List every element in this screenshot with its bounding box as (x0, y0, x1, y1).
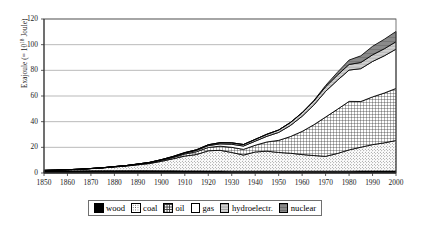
swatch-oil-icon (163, 203, 173, 213)
legend-label-nuclear: nuclear (291, 203, 316, 213)
y-tick-label: 40 (16, 118, 38, 126)
swatch-hydroelectr-icon (220, 203, 230, 213)
y-tick-label: 100 (16, 41, 38, 49)
chart-figure: Exajoule (= 1018 Joule) 020406080100120 … (0, 0, 421, 234)
legend-label-oil: oil (175, 203, 184, 213)
swatch-gas-icon (191, 203, 201, 213)
plot-area (0, 0, 421, 234)
legend-item-oil[interactable]: oil (163, 203, 184, 213)
legend-label-wood: wood (106, 203, 125, 213)
swatch-wood-icon (94, 203, 104, 213)
y-tick-label: 80 (16, 66, 38, 74)
chart-legend: wood coal oil gas hydroelectr. nuclear (88, 200, 322, 216)
x-tick-label: 2000 (381, 179, 411, 187)
legend-label-hydroelectr: hydroelectr. (232, 203, 273, 213)
swatch-nuclear-icon (279, 203, 289, 213)
legend-item-hydroelectr[interactable]: hydroelectr. (220, 203, 273, 213)
y-tick-label: 20 (16, 143, 38, 151)
legend-item-nuclear[interactable]: nuclear (279, 203, 316, 213)
legend-label-gas: gas (203, 203, 214, 213)
y-tick-label: 0 (16, 169, 38, 177)
legend-item-coal[interactable]: coal (131, 203, 157, 213)
y-tick-label: 60 (16, 92, 38, 100)
legend-label-coal: coal (143, 203, 157, 213)
legend-item-gas[interactable]: gas (191, 203, 214, 213)
y-tick-label: 120 (16, 15, 38, 23)
swatch-coal-icon (131, 203, 141, 213)
legend-item-wood[interactable]: wood (94, 203, 125, 213)
